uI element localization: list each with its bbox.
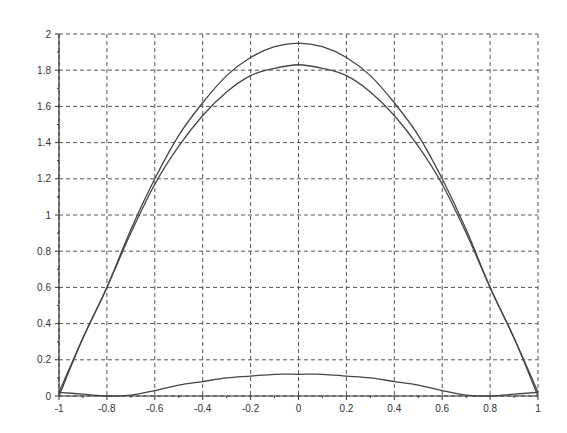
y-tick-label: 1.2 (37, 173, 51, 184)
x-tick-label: 0.6 (435, 403, 449, 414)
line-chart: -1-0.8-0.6-0.4-0.200.20.40.60.81 00.20.4… (0, 0, 567, 433)
y-tick-label: 0.2 (37, 354, 51, 365)
y-tick-label: 1.4 (37, 137, 51, 148)
x-tick-label: 0.8 (483, 403, 497, 414)
y-tick-label: 1.8 (37, 65, 51, 76)
y-tick-label: 2 (45, 29, 51, 40)
x-tick-label: 0.2 (339, 403, 353, 414)
x-tick-label: -1 (55, 403, 64, 414)
y-tick-label: 1.6 (37, 101, 51, 112)
x-axis-ticks: -1-0.8-0.6-0.4-0.200.20.40.60.81 (55, 396, 542, 414)
y-tick-label: 0.6 (37, 282, 51, 293)
y-tick-label: 0 (45, 391, 51, 402)
y-tick-label: 0.8 (37, 246, 51, 257)
x-tick-label: 1 (535, 403, 541, 414)
x-tick-label: -0.2 (242, 403, 260, 414)
y-tick-label: 1 (45, 210, 51, 221)
y-tick-label: 0.4 (37, 318, 51, 329)
x-tick-label: 0.4 (387, 403, 401, 414)
y-axis-ticks: 00.20.40.60.811.21.41.61.82 (37, 29, 59, 402)
x-tick-label: -0.6 (146, 403, 164, 414)
x-tick-label: -0.8 (98, 403, 116, 414)
x-tick-label: 0 (296, 403, 302, 414)
grid-lines (59, 34, 538, 396)
x-tick-label: -0.4 (194, 403, 212, 414)
